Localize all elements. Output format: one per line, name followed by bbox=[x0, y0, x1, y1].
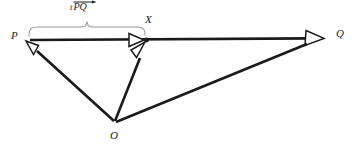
point-marker-x bbox=[144, 38, 149, 43]
vector-name-pq: PQ bbox=[74, 1, 87, 12]
vector-pq-line bbox=[30, 38, 312, 40]
point-label-x: X bbox=[145, 14, 152, 25]
point-label-q: Q bbox=[336, 28, 344, 39]
vector-diagram: P X Q O tPQ bbox=[0, 0, 355, 152]
brace-label-t-pq: tPQ bbox=[70, 2, 88, 12]
vector-name-pq-with-arrow: PQ bbox=[73, 2, 88, 12]
point-label-p: P bbox=[11, 30, 18, 41]
diagram-background bbox=[0, 0, 355, 152]
point-label-o: O bbox=[110, 130, 118, 141]
diagram-canvas bbox=[0, 0, 355, 152]
